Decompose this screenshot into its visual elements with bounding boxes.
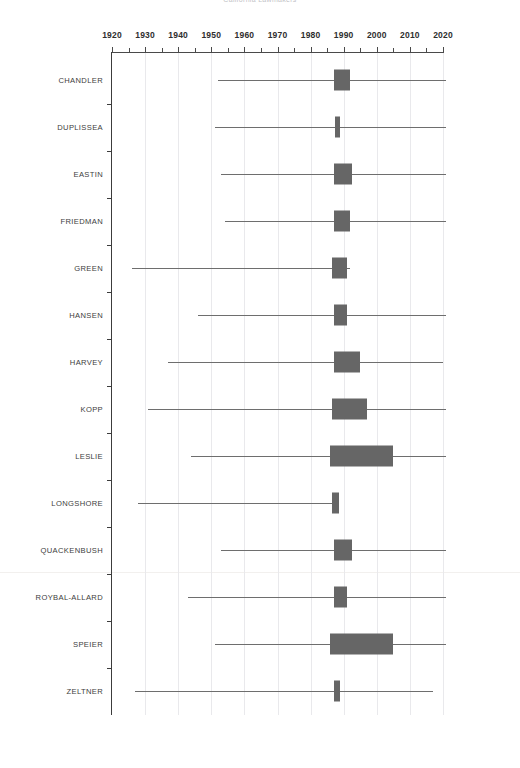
- gridline-2020: [443, 52, 444, 715]
- box: [330, 446, 393, 467]
- gridline-1930: [145, 52, 146, 715]
- category-label-leslie: LESLIE: [75, 452, 103, 461]
- x-tick-1925: [129, 48, 130, 53]
- whisker: [218, 80, 446, 81]
- y-tick: [107, 433, 112, 434]
- y-tick: [107, 245, 112, 246]
- y-tick: [107, 668, 112, 669]
- y-tick: [107, 292, 112, 293]
- x-tick-label-1920: 1920: [102, 30, 122, 40]
- y-tick: [107, 104, 112, 105]
- gridline-1940: [178, 52, 179, 715]
- box: [330, 634, 393, 655]
- category-label-harvey: HARVEY: [70, 358, 103, 367]
- category-label-longshore: LONGSHORE: [51, 499, 103, 508]
- category-label-friedman: FRIEDMAN: [61, 217, 103, 226]
- x-tick-2010: [410, 47, 411, 53]
- box: [334, 681, 341, 702]
- x-tick-label-1970: 1970: [268, 30, 288, 40]
- box-plot-chart: California Lawmakers 1920193019401950196…: [0, 0, 520, 768]
- whisker: [215, 127, 447, 128]
- box: [334, 305, 347, 326]
- box: [334, 164, 352, 185]
- y-tick: [107, 386, 112, 387]
- box: [332, 258, 347, 279]
- x-tick-1990: [344, 47, 345, 53]
- x-tick-label-1930: 1930: [135, 30, 155, 40]
- gridline-1990: [344, 52, 345, 715]
- y-tick: [107, 339, 112, 340]
- category-label-green: GREEN: [74, 264, 103, 273]
- whisker: [168, 362, 443, 363]
- y-tick: [107, 198, 112, 199]
- x-tick-1940: [178, 47, 179, 53]
- box: [332, 399, 367, 420]
- x-tick-1975: [294, 48, 295, 53]
- category-label-kopp: KOPP: [80, 405, 103, 414]
- x-tick-1920: [112, 47, 113, 53]
- x-tick-1970: [278, 47, 279, 53]
- x-tick-1985: [327, 48, 328, 53]
- x-tick-1950: [211, 47, 212, 53]
- x-tick-label-1990: 1990: [334, 30, 354, 40]
- box: [332, 493, 339, 514]
- x-tick-label-2010: 2010: [400, 30, 420, 40]
- x-tick-label-1940: 1940: [168, 30, 188, 40]
- x-tick-1995: [360, 48, 361, 53]
- whisker: [138, 503, 338, 504]
- x-tick-label-1980: 1980: [301, 30, 321, 40]
- box: [334, 540, 352, 561]
- y-tick: [107, 480, 112, 481]
- x-tick-label-1950: 1950: [201, 30, 221, 40]
- category-label-chandler: CHANDLER: [58, 76, 103, 85]
- chart-title: California Lawmakers: [0, 0, 520, 3]
- gridline-1950: [211, 52, 212, 715]
- x-tick-1930: [145, 47, 146, 53]
- x-tick-1965: [261, 48, 262, 53]
- gridline-1970: [278, 52, 279, 715]
- x-tick-2000: [377, 47, 378, 53]
- x-tick-1955: [228, 48, 229, 53]
- y-tick: [107, 574, 112, 575]
- whisker: [198, 315, 446, 316]
- whisker: [191, 456, 446, 457]
- category-label-zeltner: ZELTNER: [67, 687, 103, 696]
- x-tick-1980: [311, 47, 312, 53]
- box: [334, 352, 360, 373]
- x-tick-label-2020: 2020: [433, 30, 453, 40]
- box: [334, 587, 347, 608]
- category-label-hansen: HANSEN: [69, 311, 103, 320]
- category-label-speier: SPEIER: [73, 640, 103, 649]
- x-tick-label-1960: 1960: [235, 30, 255, 40]
- gridline-2000: [377, 52, 378, 715]
- x-tick-1945: [195, 48, 196, 53]
- gridline-1960: [244, 52, 245, 715]
- gridline-1980: [311, 52, 312, 715]
- y-tick: [107, 527, 112, 528]
- y-tick: [107, 151, 112, 152]
- x-tick-2020: [443, 47, 444, 53]
- category-label-roybal-allard: ROYBAL-ALLARD: [36, 593, 103, 602]
- category-label-eastin: EASTIN: [73, 170, 103, 179]
- plot-area: 1920193019401950196019701980199020002010…: [112, 52, 443, 742]
- gridline-2010: [410, 52, 411, 715]
- x-tick-2015: [426, 48, 427, 53]
- box: [335, 117, 340, 138]
- whisker: [148, 409, 446, 410]
- whisker: [135, 691, 433, 692]
- box: [334, 70, 351, 91]
- category-label-duplissea: DUPLISSEA: [57, 123, 103, 132]
- x-tick-1935: [162, 48, 163, 53]
- x-tick-label-2000: 2000: [367, 30, 387, 40]
- y-tick: [107, 621, 112, 622]
- category-label-quackenbush: QUACKENBUSH: [40, 546, 103, 555]
- x-tick-2005: [393, 48, 394, 53]
- x-tick-1960: [244, 47, 245, 53]
- whisker: [188, 597, 446, 598]
- whisker: [132, 268, 350, 269]
- box: [334, 211, 351, 232]
